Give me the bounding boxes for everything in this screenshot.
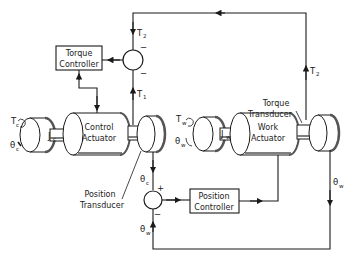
svg-text:T: T xyxy=(136,28,143,38)
svg-text:θ: θ xyxy=(140,224,145,234)
svg-text:−: − xyxy=(140,68,147,78)
svg-text:w: w xyxy=(146,230,151,236)
svg-text:Transducer: Transducer xyxy=(247,110,293,119)
svg-text:Torque: Torque xyxy=(262,99,290,108)
svg-text:c: c xyxy=(16,146,19,152)
svg-text:Controller: Controller xyxy=(59,60,99,69)
torque-controller-to-actuator-wire xyxy=(79,70,97,113)
position-transducer-label: Position Transducer xyxy=(79,151,141,210)
svg-text:c: c xyxy=(146,180,149,186)
signal-theta-w-right: θ w xyxy=(333,177,344,189)
svg-text:Work: Work xyxy=(258,123,279,132)
svg-text:c: c xyxy=(16,122,19,128)
svg-text:J: J xyxy=(220,129,224,139)
diagram-canvas: − − T 2 T 1 Torque Controller xyxy=(0,0,357,261)
svg-text:−: − xyxy=(154,209,161,219)
svg-text:Control: Control xyxy=(85,123,114,132)
work-actuator-assembly: Work Actuator xyxy=(193,113,339,155)
svg-text:c: c xyxy=(53,136,56,142)
svg-text:1: 1 xyxy=(143,94,147,100)
torque-summing-junction: − − xyxy=(123,42,147,78)
svg-text:Transducer: Transducer xyxy=(79,201,125,210)
svg-text:Actuator: Actuator xyxy=(82,134,117,143)
svg-text:Torque: Torque xyxy=(65,49,93,58)
svg-text:θ: θ xyxy=(175,136,180,146)
svg-text:w: w xyxy=(226,134,231,140)
signal-theta-c-down: θ c xyxy=(140,174,149,186)
position-controller-block: Position Controller xyxy=(190,189,239,213)
position-summing-junction: + − xyxy=(144,183,164,219)
signal-theta-w-left: θ w xyxy=(175,136,192,148)
signal-T2-top: T 2 xyxy=(136,28,147,39)
signal-T2-right: T 2 xyxy=(309,66,320,77)
signal-Tw: T w xyxy=(175,114,193,126)
svg-text:w: w xyxy=(181,142,186,148)
svg-text:w: w xyxy=(182,120,187,126)
svg-text:T: T xyxy=(175,114,182,124)
signal-T1: T 1 xyxy=(136,89,147,100)
svg-text:θ: θ xyxy=(333,177,338,187)
svg-text:θ: θ xyxy=(10,140,15,150)
svg-text:2: 2 xyxy=(143,33,147,39)
control-actuator-assembly: Control Actuator xyxy=(20,113,165,155)
torque-controller-block: Torque Controller xyxy=(56,46,102,70)
svg-text:J: J xyxy=(47,131,51,141)
svg-text:−: − xyxy=(140,42,147,52)
svg-text:2: 2 xyxy=(316,71,320,77)
svg-text:Controller: Controller xyxy=(194,203,234,212)
signal-theta-w-up: θ w xyxy=(140,224,151,236)
position-controller-to-actuator-wire xyxy=(239,155,278,201)
svg-text:T: T xyxy=(136,89,143,99)
svg-text:θ: θ xyxy=(140,174,145,184)
svg-text:Actuator: Actuator xyxy=(251,134,286,143)
svg-text:w: w xyxy=(339,183,344,189)
svg-text:+: + xyxy=(157,183,164,193)
svg-text:Position: Position xyxy=(198,192,229,201)
signal-theta-c-left: θ c xyxy=(10,140,21,152)
svg-text:Position: Position xyxy=(84,190,115,199)
svg-text:T: T xyxy=(309,66,316,76)
